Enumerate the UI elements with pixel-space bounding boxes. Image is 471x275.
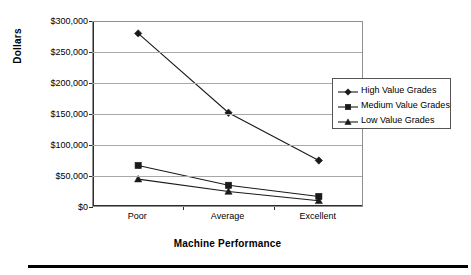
y-axis-tick-label: $50,000 (26, 171, 88, 181)
legend-item[interactable]: Low Value Grades (333, 112, 450, 127)
y-tick-mark (89, 83, 93, 84)
y-tick-mark (89, 145, 93, 146)
legend-marker-icon (337, 84, 359, 96)
plot-area (92, 21, 363, 207)
series-1 (135, 30, 323, 164)
y-tick-mark (89, 114, 93, 115)
data-point-marker (135, 162, 141, 168)
chart-legend: High Value GradesMedium Value GradesLow … (332, 78, 451, 129)
y-axis-tick-label: $100,000 (26, 140, 88, 150)
y-tick-mark (89, 21, 93, 22)
bottom-divider (28, 265, 468, 268)
y-tick-mark (89, 52, 93, 53)
y-axis-tick-label: $200,000 (26, 78, 88, 88)
x-tick-mark (274, 206, 275, 210)
line-chart-figure: Dollars $0$50,000$100,000$150,000$200,00… (0, 0, 471, 275)
x-axis-tick-label: Average (188, 211, 268, 221)
gridline (93, 21, 363, 22)
series-3 (135, 176, 323, 204)
y-tick-mark (89, 176, 93, 177)
y-axis-tick-labels: $0$50,000$100,000$150,000$200,000$250,00… (24, 0, 88, 275)
legend-item[interactable]: Medium Value Grades (333, 97, 450, 112)
legend-item-label: High Value Grades (359, 85, 436, 95)
x-axis-tick-label: Excellent (278, 211, 358, 221)
y-axis-tick-label: $0 (26, 202, 88, 212)
data-point-marker (315, 157, 322, 164)
legend-item[interactable]: High Value Grades (333, 82, 450, 97)
legend-item-label: Medium Value Grades (359, 100, 450, 110)
x-tick-mark (183, 206, 184, 210)
gridline (93, 114, 363, 115)
x-axis-tick-labels: PoorAverageExcellent (92, 211, 363, 225)
y-axis-tick-label: $250,000 (26, 47, 88, 57)
gridline (93, 83, 363, 84)
gridline (93, 52, 363, 53)
legend-marker-icon (337, 114, 359, 126)
y-axis-tick-label: $300,000 (26, 16, 88, 26)
gridline (93, 145, 363, 146)
legend-marker-icon (337, 99, 359, 111)
x-axis-title: Machine Performance (92, 238, 363, 249)
y-axis-tick-label: $150,000 (26, 109, 88, 119)
x-axis-tick-label: Poor (97, 211, 177, 221)
y-tick-mark (89, 207, 93, 208)
legend-item-label: Low Value Grades (359, 115, 434, 125)
gridline (93, 176, 363, 177)
